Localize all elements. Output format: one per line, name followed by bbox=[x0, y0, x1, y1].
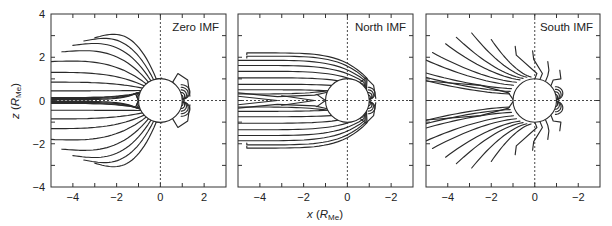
panel-north-imf: −4−20−2North IMF bbox=[238, 14, 413, 203]
field-line bbox=[551, 70, 561, 85]
field-line bbox=[51, 113, 142, 119]
field-line bbox=[51, 82, 142, 88]
panel-south-imf: −4−20−2South IMF bbox=[426, 14, 600, 203]
field-line bbox=[238, 90, 328, 91]
field-line bbox=[51, 72, 144, 86]
y-axis-label: z (RMe) bbox=[9, 83, 23, 120]
y-tick-label: −4 bbox=[32, 181, 45, 193]
panel-zero-imf: −4−202−4−2024Zero IMF bbox=[32, 8, 226, 203]
field-line bbox=[533, 122, 543, 150]
x-tick-label: −4 bbox=[441, 191, 454, 203]
plot-area bbox=[51, 14, 226, 187]
field-line bbox=[546, 120, 549, 139]
field-line bbox=[73, 44, 157, 81]
field-line bbox=[238, 107, 328, 110]
y-tick-label: 2 bbox=[39, 51, 45, 63]
x-tick-label: 0 bbox=[157, 191, 163, 203]
field-line bbox=[51, 115, 144, 129]
x-tick-label: 2 bbox=[201, 191, 207, 203]
panel-label: North IMF bbox=[355, 21, 406, 33]
field-line bbox=[238, 110, 328, 111]
y-tick-label: 4 bbox=[39, 8, 45, 20]
panel-label: South IMF bbox=[540, 21, 593, 33]
field-line bbox=[491, 124, 531, 162]
x-tick-label: −2 bbox=[297, 191, 310, 203]
field-line bbox=[238, 92, 327, 96]
x-tick-label: −2 bbox=[572, 191, 585, 203]
panels-group: −4−202−4−2024Zero IMF−4−20−2North IMF−4−… bbox=[32, 8, 600, 203]
field-line bbox=[426, 60, 514, 85]
x-tick-label: −2 bbox=[485, 191, 498, 203]
x-axis-label: x (RMe) bbox=[306, 208, 343, 222]
plot-area bbox=[238, 14, 413, 187]
field-line bbox=[73, 120, 157, 157]
x-tick-label: −2 bbox=[110, 191, 123, 203]
panel-label: Zero IMF bbox=[172, 21, 219, 33]
y-tick-label: 0 bbox=[39, 95, 45, 107]
field-line bbox=[238, 104, 327, 108]
field-line bbox=[426, 116, 514, 141]
plot-area bbox=[426, 14, 600, 187]
y-tick-label: −2 bbox=[32, 138, 45, 150]
field-line bbox=[551, 116, 561, 131]
field-line bbox=[238, 91, 328, 94]
field-line bbox=[491, 40, 531, 78]
x-tick-label: 0 bbox=[532, 191, 538, 203]
figure: −4−202−4−2024Zero IMF−4−20−2North IMF−4−… bbox=[0, 0, 612, 226]
field-line bbox=[546, 62, 549, 81]
x-tick-label: −4 bbox=[254, 191, 267, 203]
field-line bbox=[533, 51, 543, 79]
x-tick-label: −4 bbox=[67, 191, 80, 203]
x-tick-label: 0 bbox=[344, 191, 350, 203]
x-tick-label: −2 bbox=[385, 191, 398, 203]
